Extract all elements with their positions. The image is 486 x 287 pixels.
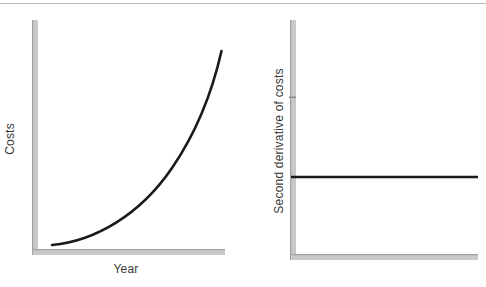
y-axis-tick-mark	[289, 97, 296, 99]
y-axis-costs-edge	[32, 20, 33, 255]
x-axis-costs	[33, 250, 225, 255]
x-axis-second-derivative-edge	[291, 254, 478, 255]
exponential-cost-curve	[52, 51, 222, 245]
chart-panel-costs: Costs Year	[0, 0, 243, 287]
chart-panel-second-derivative: Second derivative of costs Year	[243, 0, 486, 287]
y-axis-label-second-derivative: Second derivative of costs	[272, 67, 286, 215]
y-axis-second-derivative	[291, 20, 296, 260]
costs-plot-svg	[0, 0, 243, 287]
figure-canvas: Costs Year Second derivative of costs Ye…	[0, 0, 486, 287]
x-axis-label-year-left: Year	[98, 262, 154, 276]
y-axis-label-costs: Costs	[3, 115, 17, 163]
x-axis-second-derivative	[291, 255, 478, 260]
x-axis-costs-edge	[33, 249, 225, 250]
y-axis-second-derivative-edge	[290, 20, 291, 260]
y-axis-costs	[33, 20, 38, 255]
